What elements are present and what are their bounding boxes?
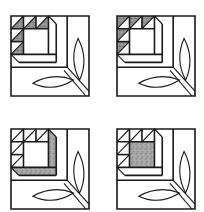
quilt-block-2 — [117, 16, 195, 96]
quilt-block-diagram — [11, 129, 89, 209]
quilt-block-diagram — [117, 129, 195, 209]
block-outline — [117, 129, 195, 209]
quilt-block-1 — [11, 16, 89, 96]
quilt-block-diagram — [117, 16, 195, 96]
quilt-block-diagram — [11, 16, 89, 96]
quilt-block-3 — [11, 129, 89, 209]
block-outline — [117, 16, 195, 96]
block-outline — [11, 16, 89, 96]
quilt-block-4 — [117, 129, 195, 209]
